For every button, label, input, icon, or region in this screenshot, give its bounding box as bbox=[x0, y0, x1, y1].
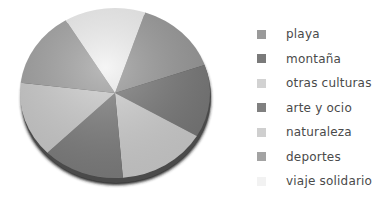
pie-chart bbox=[0, 0, 240, 200]
legend-label: deportes bbox=[286, 150, 341, 164]
legend-item-naturaleza: naturaleza bbox=[257, 120, 372, 145]
legend-item-deportes: deportes bbox=[257, 145, 372, 170]
legend-label: playa bbox=[286, 27, 320, 41]
legend-swatch bbox=[257, 54, 266, 63]
legend-label: naturaleza bbox=[286, 125, 352, 139]
legend-item-playa: playa bbox=[257, 22, 372, 47]
legend-swatch bbox=[257, 128, 266, 137]
legend-item-otras-culturas: otras culturas bbox=[257, 71, 372, 96]
legend-swatch bbox=[257, 79, 266, 88]
legend-item-arte-y-ocio: arte y ocio bbox=[257, 96, 372, 121]
legend-label: viaje solidario bbox=[286, 174, 372, 188]
legend-swatch bbox=[257, 103, 266, 112]
legend-label: arte y ocio bbox=[286, 101, 352, 115]
legend-swatch bbox=[257, 30, 266, 39]
legend-swatch bbox=[257, 152, 266, 161]
legend-item-montana: montaña bbox=[257, 47, 372, 72]
pie-shading-overlay bbox=[20, 8, 210, 178]
legend-label: montaña bbox=[286, 52, 341, 66]
legend: playa montaña otras culturas arte y ocio… bbox=[257, 22, 372, 194]
legend-swatch bbox=[257, 177, 266, 186]
legend-item-viaje-solidario: viaje solidario bbox=[257, 169, 372, 194]
legend-label: otras culturas bbox=[286, 76, 372, 90]
